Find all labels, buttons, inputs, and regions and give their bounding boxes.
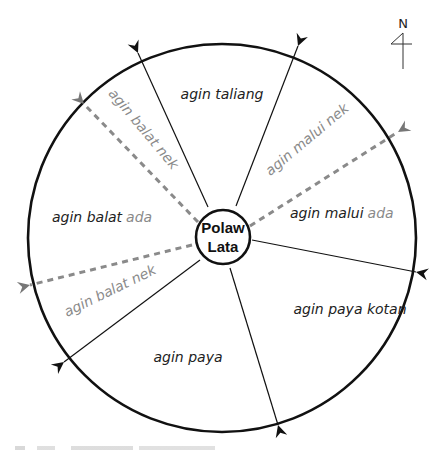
wind-direction-diagram: Polaw Lata agin taliang agin maluiada ag… bbox=[0, 0, 446, 453]
dashed-spoke-balat-nek-lower bbox=[30, 245, 192, 285]
center-label-line1: Polaw bbox=[201, 219, 245, 236]
label-ada-suffix: ada bbox=[368, 205, 394, 221]
arrow-marker-e-icon bbox=[415, 266, 429, 280]
north-arrow-icon bbox=[391, 33, 412, 69]
arrow-marker-ne-icon bbox=[292, 33, 308, 49]
label-agin-malui-nek: agin malui nek bbox=[262, 99, 352, 178]
arrow-marker-balat-nek-lower-icon bbox=[17, 279, 32, 294]
label-agin-balat-nek-lower: agin balat nek bbox=[61, 261, 159, 320]
label-agin-malui-ada: agin maluiada bbox=[290, 205, 394, 221]
label-agin-paya-kotan: agin paya kotan bbox=[293, 301, 406, 317]
label-agin-balat-nek-upper: agin balat nek bbox=[106, 85, 183, 173]
arrow-marker-sw-icon bbox=[51, 357, 68, 374]
label-agin-taliang: agin taliang bbox=[181, 86, 264, 102]
label-agin-malui: agin malui bbox=[290, 205, 364, 221]
center-label-line2: Lata bbox=[208, 238, 240, 255]
north-label: N bbox=[398, 16, 408, 31]
label-agin-paya: agin paya bbox=[153, 349, 222, 365]
label-agin-balat: agin balat bbox=[52, 209, 123, 225]
label-ada-suffix: ada bbox=[126, 209, 152, 225]
figure-caption-blurred bbox=[15, 446, 215, 450]
spoke-ne bbox=[236, 46, 298, 206]
label-agin-balat-ada: agin balatada bbox=[52, 209, 152, 225]
north-indicator: N bbox=[391, 16, 412, 69]
spoke-e bbox=[252, 240, 416, 272]
arrow-marker-nw-icon bbox=[128, 40, 144, 56]
arrow-marker-malui-nek-icon bbox=[395, 121, 412, 138]
spoke-s bbox=[230, 268, 278, 425]
